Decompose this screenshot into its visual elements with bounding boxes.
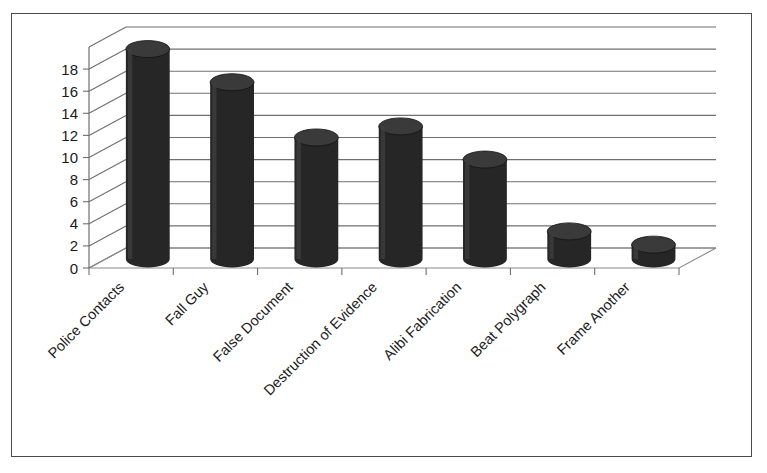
bar-chart: 024681012141618 Police ContactsFall GuyF… (12, 14, 753, 458)
bars-group (126, 41, 676, 268)
category-label: Beat Polygraph (467, 279, 548, 360)
clipped-top-caption (10, 0, 410, 4)
y-tick-label: 8 (70, 171, 78, 188)
y-tick-label: 6 (70, 193, 78, 210)
x-tick-marks-group (89, 268, 679, 275)
bar (632, 236, 676, 267)
bar (126, 41, 170, 268)
y-tick-label: 4 (70, 215, 78, 232)
y-tick-label: 16 (61, 83, 78, 100)
y-tick-labels-group: 024681012141618 (61, 61, 89, 277)
y-tick-label: 0 (70, 260, 78, 277)
bar (210, 74, 254, 268)
bar (294, 129, 338, 268)
category-label: Fall Guy (162, 278, 212, 328)
y-tick-label: 18 (61, 61, 78, 78)
category-label: Frame Another (554, 279, 633, 358)
category-label: Alibi Fabrication (380, 279, 464, 363)
y-tick-label: 14 (61, 105, 78, 122)
y-tick-label: 10 (61, 149, 78, 166)
category-label: False Document (210, 279, 296, 365)
category-label: Police Contacts (45, 279, 128, 362)
y-tick-label: 12 (61, 127, 78, 144)
bar (547, 223, 591, 268)
bar (463, 151, 507, 267)
bar (379, 118, 423, 268)
figure-frame: 024681012141618 Police ContactsFall GuyF… (11, 13, 752, 457)
chart-canvas: 024681012141618 Police ContactsFall GuyF… (12, 14, 753, 458)
y-tick-label: 2 (70, 237, 78, 254)
category-labels-group: Police ContactsFall GuyFalse DocumentDes… (45, 278, 633, 398)
